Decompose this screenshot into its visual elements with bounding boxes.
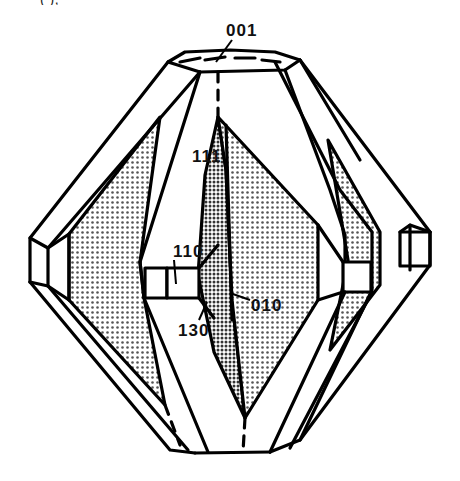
leader-line-010 <box>228 290 254 304</box>
leader-line-110 <box>168 258 180 288</box>
face-label-130: 130 <box>178 322 209 339</box>
leader-line-130 <box>195 300 211 324</box>
crystal-diagram <box>0 0 460 481</box>
face-label-111: 111 <box>192 148 222 165</box>
leader-line-001 <box>210 38 240 66</box>
outer-edge-bottom <box>195 452 270 453</box>
face-label-001: 001 <box>226 22 257 39</box>
shaded-face-left <box>69 117 165 405</box>
face-label-010: 010 <box>251 297 282 314</box>
